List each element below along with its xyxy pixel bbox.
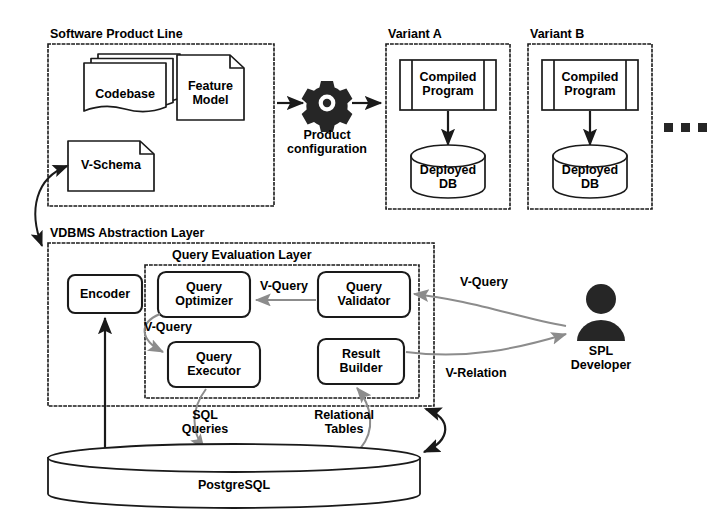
edge-label-sql-queries: SQL Queries	[170, 408, 240, 437]
v-schema-label: V-Schema	[68, 158, 154, 172]
spl-developer-label: SPL Developer	[556, 344, 646, 373]
compiled-program-b-label: Compiled Program	[554, 70, 626, 99]
edge-label-v-relation-developer: V-Relation	[434, 366, 518, 380]
postgresql-shape	[48, 444, 420, 508]
edge-label-v-query-optimizer-executor: V-Query	[132, 320, 204, 334]
deployed-db-a-label: Deployed DB	[411, 163, 485, 192]
architecture-diagram: Software Product Line Variant A Variant …	[0, 0, 719, 527]
group-title-variant-b: Variant B	[530, 27, 584, 41]
edge-label-v-query-validator-optimizer: V-Query	[248, 279, 320, 293]
more-variants-ellipsis-icon	[664, 123, 707, 132]
arrow-vdbms-postgresql-bidirectional	[424, 409, 445, 452]
group-title-query-evaluation-layer: Query Evaluation Layer	[172, 248, 312, 262]
postgresql-label: PostgreSQL	[48, 478, 420, 492]
query-optimizer-label: Query Optimizer	[158, 280, 250, 309]
group-title-vdbms-abstraction-layer: VDBMS Abstraction Layer	[50, 226, 204, 240]
arrow-developer-to-validator	[414, 294, 566, 326]
encoder-label: Encoder	[68, 287, 142, 301]
product-configuration-label: Product configuration	[267, 128, 387, 157]
gear-icon	[302, 81, 353, 132]
codebase-shape	[84, 54, 180, 112]
group-title-software-product-line: Software Product Line	[50, 27, 183, 41]
compiled-program-a-label: Compiled Program	[412, 70, 484, 99]
deployed-db-b-label: Deployed DB	[553, 163, 627, 192]
query-validator-label: Query Validator	[318, 280, 410, 309]
query-executor-label: Query Executor	[168, 350, 260, 379]
codebase-label: Codebase	[84, 87, 166, 101]
arrow-result-builder-to-developer	[406, 334, 566, 355]
edge-label-v-query-developer: V-Query	[448, 275, 520, 289]
feature-model-label: Feature Model	[177, 79, 244, 108]
spl-developer-icon	[577, 284, 625, 341]
group-title-variant-a: Variant A	[388, 27, 442, 41]
edge-label-relational-tables: Relational Tables	[302, 408, 386, 437]
result-builder-label: Result Builder	[318, 347, 404, 376]
